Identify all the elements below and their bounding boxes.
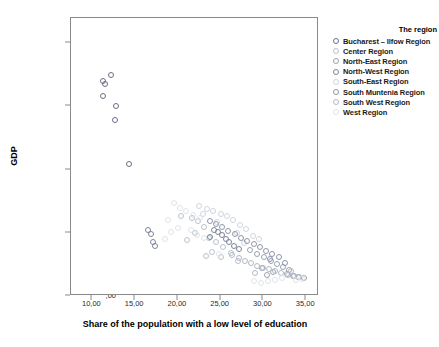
x-axis-title: Share of the population with a low level…	[0, 319, 390, 329]
legend-marker-icon	[333, 109, 339, 115]
data-point	[282, 260, 288, 266]
data-point	[197, 215, 203, 221]
data-point	[168, 229, 174, 235]
data-point	[272, 277, 278, 283]
legend-marker-icon	[333, 89, 339, 95]
data-point	[265, 278, 271, 284]
data-point	[175, 225, 181, 231]
data-point	[244, 238, 250, 244]
scatter-chart: GDP ,005000,0010000,0015000,0020000,00 1…	[0, 0, 439, 347]
plot-area	[70, 17, 318, 295]
data-point	[190, 212, 196, 218]
legend-marker-icon	[333, 79, 339, 85]
x-tick-mark	[219, 295, 220, 300]
data-point	[225, 228, 231, 234]
x-tick-label: 15,00	[125, 299, 144, 308]
data-point	[279, 275, 285, 281]
legend-item[interactable]: Bucharest – Ilfow Region	[333, 36, 439, 46]
data-point	[112, 117, 118, 123]
data-point	[152, 243, 158, 249]
data-point	[220, 244, 226, 250]
legend-items: Bucharest – Ilfow RegionCenter RegionNor…	[333, 36, 439, 118]
x-tick-label: 25,00	[210, 299, 229, 308]
x-tick-label: 10,00	[82, 299, 101, 308]
data-point	[194, 232, 200, 238]
data-point	[188, 227, 194, 233]
legend-marker-icon	[333, 58, 339, 64]
x-tick-label: 30,00	[253, 299, 272, 308]
data-point	[213, 239, 219, 245]
data-point	[102, 81, 108, 87]
data-point	[203, 253, 209, 259]
legend-item[interactable]: Center Region	[333, 46, 439, 56]
legend-item-label: South-East Region	[343, 77, 408, 86]
legend-item-label: Bucharest – Ilfow Region	[343, 37, 430, 46]
legend-item-label: North-West Region	[343, 67, 409, 76]
x-tick-mark	[305, 295, 306, 300]
legend-item-label: North-East Region	[343, 57, 407, 66]
data-point	[209, 249, 215, 255]
legend-item[interactable]: South Muntenia Region	[333, 87, 439, 97]
data-point	[126, 161, 132, 167]
data-point	[230, 217, 236, 223]
legend-item-label: South Muntenia Region	[343, 88, 425, 97]
data-point	[258, 280, 264, 286]
data-point	[243, 226, 249, 232]
legend-item-label: South West Region	[343, 98, 410, 107]
x-tick-label: 20,00	[168, 299, 187, 308]
x-tick-mark	[176, 295, 177, 300]
data-point	[100, 93, 106, 99]
legend-title: The region	[333, 25, 439, 34]
data-point	[252, 270, 258, 276]
data-point	[171, 200, 177, 206]
legend-item[interactable]: West Region	[333, 107, 439, 117]
data-point	[201, 235, 207, 241]
legend-marker-icon	[333, 38, 339, 44]
data-point	[288, 268, 294, 274]
data-point	[299, 276, 305, 282]
legend-item[interactable]: South West Region	[333, 97, 439, 107]
legend-marker-icon	[333, 69, 339, 75]
legend-item-label: Center Region	[343, 47, 393, 56]
data-point	[201, 224, 207, 230]
legend-item-label: West Region	[343, 108, 387, 117]
x-tick-mark	[262, 295, 263, 300]
data-point	[165, 217, 171, 223]
y-axis-title: GDP	[9, 146, 19, 166]
data-point	[236, 246, 242, 252]
data-point	[148, 231, 154, 237]
data-point	[210, 208, 216, 214]
data-point	[207, 234, 213, 240]
data-point	[183, 208, 189, 214]
data-point	[218, 211, 224, 217]
legend-item[interactable]: South-East Region	[333, 77, 439, 87]
data-point	[236, 255, 242, 261]
plot-canvas	[71, 18, 317, 294]
x-tick-mark	[134, 295, 135, 300]
legend-marker-icon	[333, 99, 339, 105]
data-point	[256, 236, 262, 242]
legend-item[interactable]: North-East Region	[333, 56, 439, 66]
data-point	[229, 252, 235, 258]
data-point	[216, 251, 222, 257]
data-point	[196, 203, 202, 209]
data-point	[213, 221, 219, 227]
data-point	[207, 218, 213, 224]
data-point	[251, 278, 257, 284]
data-point	[276, 254, 282, 260]
legend-marker-icon	[333, 48, 339, 54]
legend: The region Bucharest – Ilfow RegionCente…	[333, 25, 439, 118]
data-point	[113, 103, 119, 109]
data-point	[247, 247, 253, 253]
data-point	[184, 237, 190, 243]
x-tick-label: 35,00	[296, 299, 315, 308]
x-tick-mark	[91, 295, 92, 300]
data-point	[178, 213, 184, 219]
data-point	[162, 236, 168, 242]
data-point	[254, 251, 260, 257]
data-point	[267, 256, 273, 262]
data-point	[108, 72, 114, 78]
legend-item[interactable]: North-West Region	[333, 67, 439, 77]
